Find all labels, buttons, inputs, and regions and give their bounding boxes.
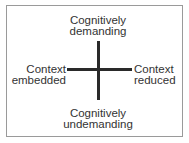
label-cognitively-demanding: Cognitively demanding [55,15,141,37]
label-context-reduced: Context reduced [134,64,184,86]
label-line: embedded [9,75,66,86]
label-cognitively-undemanding: Cognitively undemanding [55,108,141,130]
label-line: undemanding [55,119,141,130]
label-line: reduced [134,75,184,86]
label-line: demanding [55,26,141,37]
label-context-embedded: Context embedded [9,64,66,86]
horizontal-axis [67,68,132,71]
